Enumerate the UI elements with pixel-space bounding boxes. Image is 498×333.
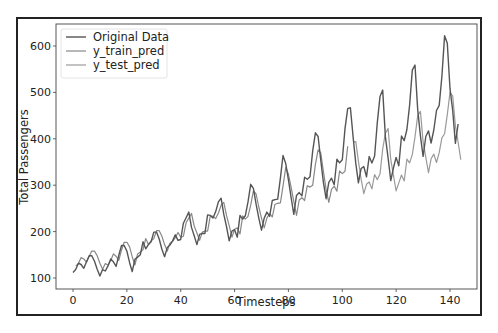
y-tick-label: 600 [30, 40, 51, 53]
x-tick-label: 40 [174, 294, 188, 307]
x-tick-label: 120 [386, 294, 407, 307]
legend: Original Data y_train_pred y_test_pred [61, 29, 169, 78]
x-tick-label: 140 [440, 294, 461, 307]
legend-label-original: Original Data [93, 30, 169, 44]
line-chart: 020406080100120140 100200300400500600 Ti… [0, 0, 498, 333]
y-axis-label: Total Passengers [17, 109, 31, 205]
x-tick-label: 20 [120, 294, 134, 307]
y-tick-label: 500 [30, 86, 51, 99]
x-tick-label: 100 [332, 294, 353, 307]
x-tick-label: 0 [70, 294, 77, 307]
x-axis-label: Timesteps [235, 295, 295, 309]
legend-label-test: y_test_pred [93, 58, 160, 72]
y-tick-label: 400 [30, 133, 51, 146]
y-tick-label: 100 [30, 272, 51, 285]
y-tick-label: 200 [30, 226, 51, 239]
y-axis-ticks: 100200300400500600 [30, 40, 56, 285]
y-tick-label: 300 [30, 179, 51, 192]
legend-label-train: y_train_pred [93, 44, 164, 58]
